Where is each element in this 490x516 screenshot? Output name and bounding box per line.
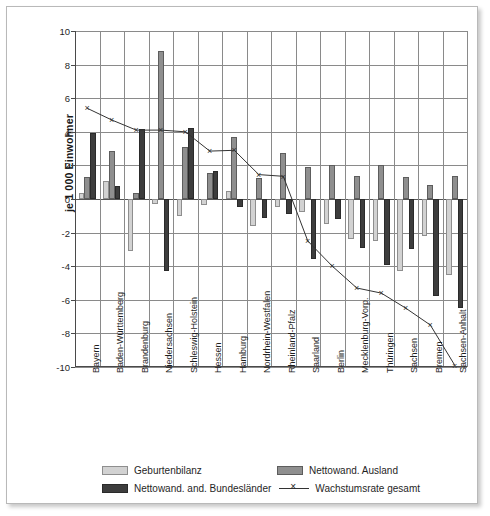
- y-tick-label--2: -2: [62, 227, 70, 238]
- line-marker: ×: [158, 125, 163, 135]
- legend-label-geburtenbilanz: Geburtenbilanz: [134, 465, 202, 476]
- y-tick-mark--8: [71, 333, 75, 334]
- legend-swatch-geburtenbilanz: [102, 466, 128, 475]
- y-axis-line: [75, 31, 76, 367]
- x-axis-label-8: Rheinland-Pfalz: [287, 309, 297, 373]
- legend-row-2: Nettowand. and. Bundesländer Wachstumsra…: [102, 483, 432, 494]
- line-marker: ×: [134, 125, 139, 135]
- x-axis-label-0: Bayern: [91, 344, 101, 373]
- y-tick-label--10: -10: [56, 362, 70, 373]
- x-axis-label-2: Brandenburg: [140, 321, 150, 373]
- x-axis-label-6: Hamburg: [238, 336, 248, 373]
- x-axis-label-11: Mecklenburg-Vorp.: [360, 297, 370, 373]
- legend-swatch-nettowand-bundeslaender: [102, 484, 128, 493]
- y-tick-label--4: -4: [62, 261, 70, 272]
- x-axis-label-15: Sachsen-Anhalt: [458, 309, 468, 373]
- y-tick-mark-6: [71, 98, 75, 99]
- x-axis-label-13: Sachsen: [409, 338, 419, 373]
- line-marker: ×: [403, 303, 408, 313]
- legend-row-1: Geburtenbilanz Nettowand. Ausland: [102, 465, 432, 476]
- chart-frame: je 1 000 Einwohner ×××××××××××××××× 1086…: [6, 6, 478, 504]
- line-marker: ×: [183, 127, 188, 137]
- legend-item-nettowand-bundeslaender: Nettowand. and. Bundesländer: [102, 483, 271, 494]
- y-tick-label-6: 6: [65, 93, 70, 104]
- line-marker: ×: [207, 146, 212, 156]
- legend-swatch-wachstumsrate-gesamt: [279, 484, 309, 493]
- line-marker: ×: [379, 288, 384, 298]
- y-tick-label-4: 4: [65, 126, 70, 137]
- y-tick-mark-4: [71, 132, 75, 133]
- legend-label-nettowand-bundeslaender: Nettowand. and. Bundesländer: [134, 483, 271, 494]
- legend-label-nettowand-ausland: Nettowand. Ausland: [309, 465, 398, 476]
- y-tick-label-10: 10: [59, 26, 70, 37]
- y-tick-label--8: -8: [62, 328, 70, 339]
- line-marker: ×: [330, 261, 335, 271]
- y-tick-mark-10: [71, 31, 75, 32]
- legend-item-geburtenbilanz: Geburtenbilanz: [102, 465, 277, 476]
- line-marker: ×: [256, 170, 261, 180]
- y-tick-mark--6: [71, 300, 75, 301]
- y-tick-label-2: 2: [65, 160, 70, 171]
- y-tick-mark--4: [71, 266, 75, 267]
- y-tick-mark--2: [71, 233, 75, 234]
- legend-item-nettowand-ausland: Nettowand. Ausland: [277, 465, 398, 476]
- y-tick-mark-2: [71, 165, 75, 166]
- legend-label-wachstumsrate-gesamt: Wachstumsrate gesamt: [315, 483, 420, 494]
- x-axis-label-10: Berlin: [336, 350, 346, 373]
- line-marker: ×: [109, 115, 114, 125]
- x-axis-label-12: Thüringen: [385, 332, 395, 373]
- x-axis-label-9: Saarland: [311, 337, 321, 373]
- legend-item-wachstumsrate-gesamt: Wachstumsrate gesamt: [279, 483, 420, 494]
- y-tick-label-0: 0: [65, 194, 70, 205]
- chart-legend: Geburtenbilanz Nettowand. Ausland Nettow…: [102, 465, 432, 501]
- x-axis-label-4: Schleswig-Holstein: [189, 297, 199, 373]
- y-tick-mark-0: [71, 199, 75, 200]
- x-axis-label-14: Bremen: [434, 341, 444, 373]
- y-tick-label-8: 8: [65, 59, 70, 70]
- x-axis-label-1: Baden-Württemberg: [115, 292, 125, 373]
- line-marker: ×: [232, 145, 237, 155]
- legend-swatch-nettowand-ausland: [277, 466, 303, 475]
- y-tick-label--6: -6: [62, 294, 70, 305]
- x-axis-label-7: Nordrhein-Westfalen: [262, 291, 272, 373]
- line-marker: ×: [428, 320, 433, 330]
- line-marker: ×: [354, 283, 359, 293]
- line-marker: ×: [281, 172, 286, 182]
- line-marker: ×: [85, 103, 90, 113]
- y-tick-mark-8: [71, 65, 75, 66]
- y-tick-mark--10: [71, 367, 75, 368]
- line-marker: ×: [305, 236, 310, 246]
- x-axis-label-3: Niedersachsen: [164, 313, 174, 373]
- x-axis-label-5: Hessen: [213, 342, 223, 373]
